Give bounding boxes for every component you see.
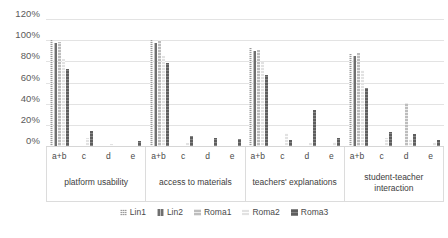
category-group: a+bcdeteachers' explanations <box>245 147 344 202</box>
roma1-swatch <box>194 209 201 216</box>
bar[interactable] <box>54 43 57 146</box>
bar[interactable] <box>62 59 65 146</box>
category-title-wrap: access to materials <box>146 164 244 201</box>
bar-subgroup <box>72 19 96 146</box>
bar-group <box>245 19 345 146</box>
y-axis-tick-label: 40% <box>21 94 40 104</box>
y-axis: 120%100%80%60%40%20%0% <box>0 14 44 146</box>
bar[interactable] <box>214 138 217 146</box>
legend-item[interactable]: Lin2 <box>157 208 183 217</box>
bar-subgroup <box>120 19 144 146</box>
bar[interactable] <box>257 50 260 146</box>
legend-item[interactable]: Roma2 <box>242 208 279 217</box>
subcategory-label: e <box>121 151 146 161</box>
bar[interactable] <box>353 56 356 146</box>
bar-group <box>146 19 246 146</box>
subcategory-label: d <box>96 151 121 161</box>
subcategory-labels: a+bcde <box>146 147 244 164</box>
category-label: student-teacher interaction <box>347 172 441 194</box>
subcategory-label: c <box>270 151 295 161</box>
bar-group <box>345 19 445 146</box>
bar[interactable] <box>349 54 352 146</box>
bar[interactable] <box>385 138 388 146</box>
legend-label: Lin1 <box>130 208 146 217</box>
bar-subgroup <box>219 19 243 146</box>
subcategory-label: a+b <box>246 151 271 161</box>
subcategory-label: d <box>195 151 220 161</box>
lin2-swatch <box>157 209 164 216</box>
bar[interactable] <box>158 40 161 146</box>
bar[interactable] <box>253 51 256 146</box>
bar[interactable] <box>265 75 268 146</box>
bar[interactable] <box>313 110 316 146</box>
bar[interactable] <box>413 134 416 146</box>
bar[interactable] <box>249 48 252 146</box>
category-group: a+bcdeplatform usability <box>46 147 145 202</box>
legend-label: Lin2 <box>167 208 183 217</box>
y-axis-tick-label: 60% <box>21 73 40 83</box>
subcategory-label: d <box>394 151 419 161</box>
bar[interactable] <box>58 42 61 146</box>
bar[interactable] <box>50 40 53 146</box>
category-title-wrap: teachers' explanations <box>246 164 344 201</box>
bar[interactable] <box>66 69 69 146</box>
bar[interactable] <box>162 56 165 146</box>
bar[interactable] <box>285 133 288 146</box>
bar[interactable] <box>190 136 193 146</box>
bar-subgroup <box>96 19 120 146</box>
category-group: a+bcdeaccess to materials <box>145 147 244 202</box>
bar[interactable] <box>166 63 169 146</box>
bar[interactable] <box>86 138 89 146</box>
bar[interactable] <box>365 88 368 146</box>
roma3-swatch <box>291 209 298 216</box>
bar-subgroup <box>148 19 172 146</box>
category-label: access to materials <box>159 177 232 188</box>
bar[interactable] <box>150 40 153 146</box>
lin1-swatch <box>120 209 127 216</box>
category-title-wrap: student-teacher interaction <box>345 164 443 201</box>
bar[interactable] <box>261 62 264 146</box>
bar[interactable] <box>405 103 408 146</box>
y-axis-tick-label: 100% <box>15 30 40 40</box>
bar[interactable] <box>154 43 157 146</box>
bar-subgroup <box>271 19 295 146</box>
subcategory-label: a+b <box>345 151 370 161</box>
bar[interactable] <box>357 53 360 146</box>
y-axis-tick-label: 0% <box>26 136 40 146</box>
subcategory-label: e <box>418 151 443 161</box>
y-axis-tick-label: 120% <box>15 9 40 19</box>
bar[interactable] <box>389 132 392 146</box>
bar[interactable] <box>238 139 241 146</box>
subcategory-label: c <box>171 151 196 161</box>
roma2-swatch <box>242 209 249 216</box>
bar-subgroup <box>247 19 271 146</box>
legend-item[interactable]: Roma3 <box>291 208 328 217</box>
subcategory-label: c <box>72 151 97 161</box>
legend-label: Roma1 <box>204 208 231 217</box>
category-label: platform usability <box>64 177 128 188</box>
subcategory-label: c <box>369 151 394 161</box>
bar-subgroup <box>295 19 319 146</box>
category-label: teachers' explanations <box>252 177 336 188</box>
legend-label: Roma2 <box>252 208 279 217</box>
bar[interactable] <box>90 131 93 146</box>
bar[interactable] <box>337 138 340 146</box>
bar-subgroup <box>48 19 72 146</box>
plot-area <box>46 19 444 146</box>
bar-subgroup <box>171 19 195 146</box>
subcategory-labels: a+bcde <box>47 147 145 164</box>
legend-item[interactable]: Lin1 <box>120 208 146 217</box>
bar-subgroup <box>418 19 442 146</box>
bar-chart: 120%100%80%60%40%20%0% a+bcdeplatform us… <box>0 0 448 238</box>
y-axis-tick-label: 80% <box>21 51 40 61</box>
bar[interactable] <box>409 139 412 146</box>
bar[interactable] <box>361 70 364 146</box>
subcategory-label: e <box>220 151 245 161</box>
bar-subgroup <box>347 19 371 146</box>
legend-label: Roma3 <box>301 208 328 217</box>
subcategory-label: a+b <box>146 151 171 161</box>
category-axis: a+bcdeplatform usabilitya+bcdeaccess to … <box>46 146 444 202</box>
legend-item[interactable]: Roma1 <box>194 208 231 217</box>
y-axis-tick-label: 20% <box>21 115 40 125</box>
category-title-wrap: platform usability <box>47 164 145 201</box>
